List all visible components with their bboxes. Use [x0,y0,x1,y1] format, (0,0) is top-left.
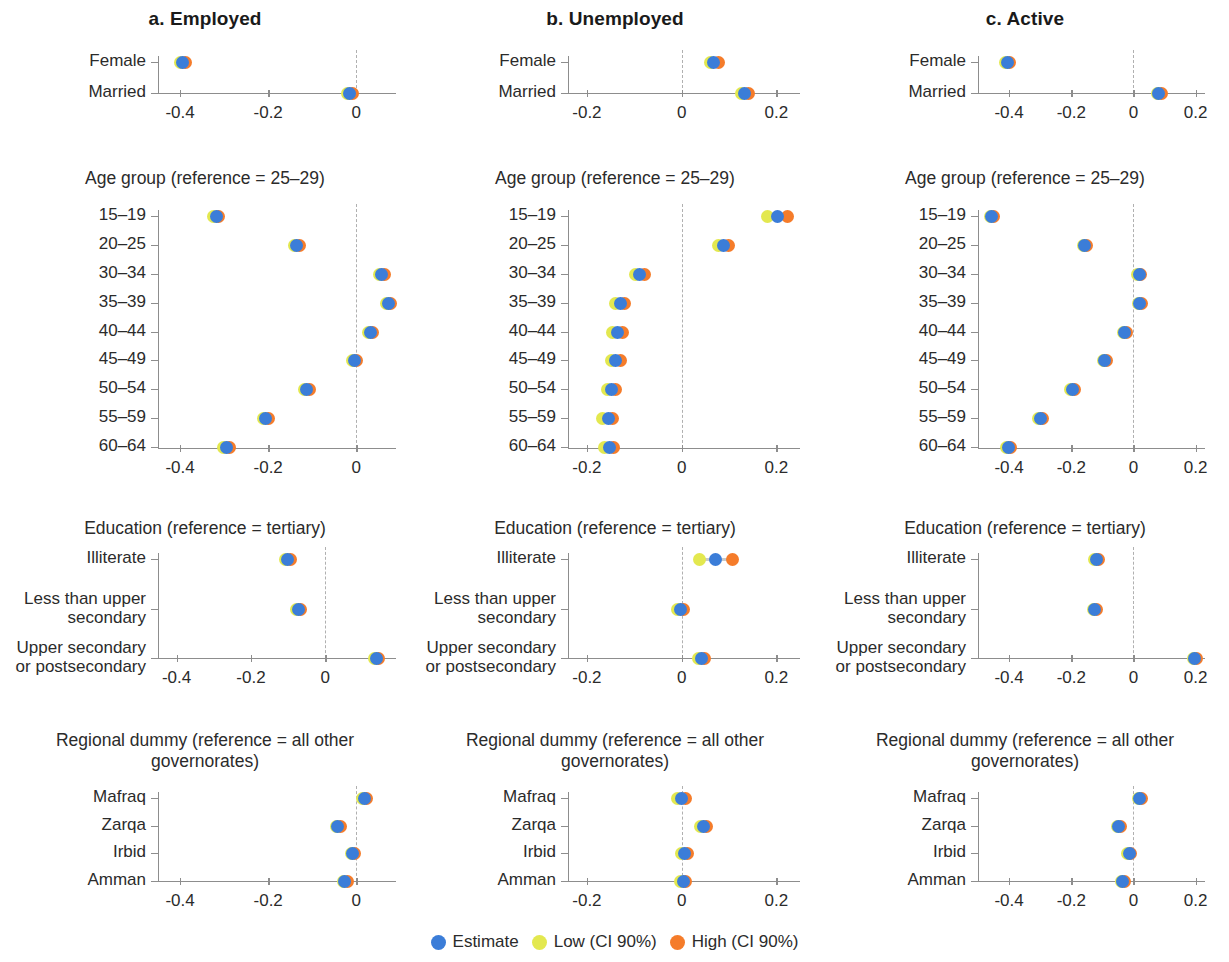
legend-item-low: Low (CI 90%) [532,932,657,952]
dot-estimate [1066,383,1079,396]
y-tick-label: Amman [822,870,966,890]
y-tick [971,826,978,827]
coefficient-plot-figure: a. Employedb. Unemployedc. Active-0.4-0.… [0,0,1229,962]
dot-estimate [1133,268,1146,281]
x-tick [1196,878,1197,885]
dot-estimate [220,441,233,454]
dot-estimate [358,792,371,805]
y-tick-label: Zarqa [822,815,966,835]
legend-item-high: High (CI 90%) [670,932,799,952]
dot-estimate [605,383,618,396]
x-axis-line [978,881,1205,882]
dot-estimate [1088,603,1101,616]
dot-estimate [695,652,708,665]
y-tick-label: Mafraq [822,787,966,807]
dot-estimate [1133,297,1146,310]
legend-label-high: High (CI 90%) [692,932,799,952]
dot-estimate [611,326,624,339]
dot-estimate [292,603,305,616]
dot-estimate [697,820,710,833]
dot-estimate [1188,652,1201,665]
x-tick-label: 0.2 [1156,891,1229,911]
dot-estimate [259,412,272,425]
block-title-region-3: Regional dummy (reference = all other go… [820,730,1229,773]
chart-legend: EstimateLow (CI 90%)High (CI 90%) [0,932,1229,952]
dot-estimate [1090,553,1103,566]
y-tick [971,853,978,854]
dot-estimate [210,210,223,223]
dot-estimate [677,875,690,888]
dot-estimate [1034,412,1047,425]
dot-estimate [1133,792,1146,805]
dot-estimate [370,652,383,665]
x-tick [1133,878,1134,885]
dot-estimate [290,239,303,252]
dot-estimate [738,87,751,100]
panel-region-3: Regional dummy (reference = all other go… [0,0,1229,962]
dot-estimate [375,268,388,281]
dot-estimate [176,56,189,69]
legend-label-estimate: Estimate [453,932,519,952]
dot-estimate [338,875,351,888]
dot-estimate [331,820,344,833]
dot-estimate [675,792,688,805]
dot-estimate [985,210,998,223]
x-tick [1009,878,1010,885]
dot-estimate [771,210,784,223]
dot-estimate [1001,56,1014,69]
dot-low [693,553,706,566]
dot-high [726,553,739,566]
dot-estimate [603,441,616,454]
dot-estimate [382,297,395,310]
dot-estimate [609,354,622,367]
dot-estimate [717,239,730,252]
legend-item-estimate: Estimate [431,932,519,952]
y-tick [971,798,978,799]
dot-estimate [678,847,691,860]
dot-estimate [343,87,356,100]
dot-estimate [633,268,646,281]
dot-estimate [707,56,720,69]
dot-estimate [1002,441,1015,454]
dot-estimate [346,847,359,860]
dot-estimate [1116,875,1129,888]
estimate-swatch-icon [431,935,446,950]
x-tick [1071,878,1072,885]
dot-estimate [709,553,722,566]
dot-estimate [1078,239,1091,252]
dot-estimate [1152,87,1165,100]
dot-estimate [300,383,313,396]
dot-estimate [614,297,627,310]
legend-label-low: Low (CI 90%) [554,932,657,952]
dot-estimate [348,354,361,367]
low-swatch-icon [532,935,547,950]
y-tick-label: Irbid [822,842,966,862]
dot-estimate [1112,820,1125,833]
dot-estimate [1098,354,1111,367]
y-axis-spine [978,792,979,881]
y-tick [971,881,978,882]
dot-estimate [674,603,687,616]
dot-estimate [1123,847,1136,860]
dot-estimate [281,553,294,566]
dot-estimate [364,326,377,339]
high-swatch-icon [670,935,685,950]
dot-estimate [602,412,615,425]
dot-estimate [1118,326,1131,339]
